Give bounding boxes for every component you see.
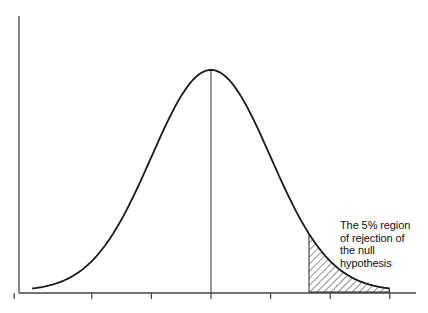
x-axis-ticks: [14, 293, 390, 299]
rejection-region-label: The 5% region of rejection of the null h…: [340, 219, 410, 269]
